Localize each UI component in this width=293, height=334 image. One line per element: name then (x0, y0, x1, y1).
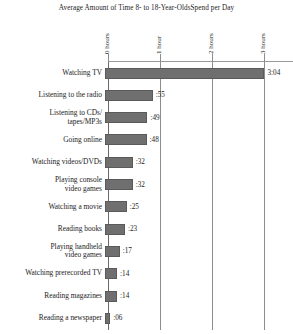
category-label: Watching prerecorded TV (0, 269, 105, 278)
category-label: Playing handheld video games (0, 243, 105, 260)
x-tick-label-3h: 3 hours (259, 33, 267, 54)
category-label: Playing console video games (0, 176, 105, 193)
bar (105, 179, 133, 190)
bar-value-label: :32 (136, 158, 145, 166)
tick-stub-2h (212, 54, 213, 62)
category-label: Watching TV (0, 69, 105, 78)
bar-container: :25 (105, 196, 293, 218)
x-tick-label-1h: 1 hour (155, 36, 163, 54)
bar-value-label: :32 (136, 181, 145, 189)
bar-value-label: :49 (150, 114, 159, 122)
category-label: Listening to the radio (0, 91, 105, 100)
bar-row: Listening to CDs/ tapes/MP3s:49 (0, 107, 293, 129)
bar-container: :32 (105, 151, 293, 173)
bar (105, 90, 153, 101)
bar-row: Watching videos/DVDs:32 (0, 151, 293, 173)
bar-chart: Average Amount of Time 8- to 18-Year-Old… (0, 0, 293, 334)
bar-container: :49 (105, 107, 293, 129)
category-label: Watching a movie (0, 203, 105, 212)
bar-row: Watching a movie:25 (0, 196, 293, 218)
bar-container: :14 (105, 285, 293, 307)
bar-container: :48 (105, 129, 293, 151)
bar-row: Watching TV3:04 (0, 62, 293, 84)
bar-row: Playing handheld video games:17 (0, 240, 293, 262)
bar-value-label: :25 (130, 203, 139, 211)
bar (105, 313, 110, 324)
bar-value-label: :23 (128, 225, 137, 233)
bar-value-label: :14 (120, 292, 129, 300)
bar-row: Playing console video games:32 (0, 174, 293, 196)
bar (105, 112, 147, 123)
bar-value-label: :06 (113, 314, 122, 322)
bar (105, 224, 125, 235)
bar-container: :14 (105, 263, 293, 285)
bar (105, 268, 117, 279)
bar (105, 68, 264, 79)
bar-container: :06 (105, 307, 293, 329)
bar-value-label: :48 (150, 136, 159, 144)
bar (105, 157, 133, 168)
category-label: Reading books (0, 225, 105, 234)
bar-row: Reading magazines:14 (0, 285, 293, 307)
x-tick-label-0h: 0 hours (103, 33, 111, 54)
bar-value-label: :14 (120, 270, 129, 278)
bar (105, 246, 120, 257)
bar-row: Going online:48 (0, 129, 293, 151)
bar-row: Watching prerecorded TV:14 (0, 263, 293, 285)
bar-container: :17 (105, 240, 293, 262)
category-label: Reading magazines (0, 292, 105, 301)
bar-container: 3:04 (105, 62, 293, 84)
bar (105, 134, 147, 145)
bar-row: Reading a newspaper:06 (0, 307, 293, 329)
bar-rows: Watching TV3:04Listening to the radio:55… (0, 62, 293, 330)
bar-container: :32 (105, 174, 293, 196)
bar (105, 201, 127, 212)
bar-value-label: 3:04 (267, 69, 280, 77)
bar-row: Listening to the radio:55 (0, 84, 293, 106)
bar-container: :55 (105, 84, 293, 106)
x-tick-label-2h: 2 hours (207, 33, 215, 54)
bar-value-label: :55 (156, 91, 165, 99)
tick-stub-0h (108, 54, 109, 62)
category-label: Reading a newspaper (0, 314, 105, 323)
category-label: Watching videos/DVDs (0, 158, 105, 167)
bar-row: Reading books:23 (0, 218, 293, 240)
bar-value-label: :17 (123, 247, 132, 255)
tick-stub-3h (264, 54, 265, 62)
x-axis-tick-labels: 0 hours1 hour2 hours3 hours4 hours (0, 0, 293, 62)
bar (105, 291, 117, 302)
tick-stub-1h (160, 54, 161, 62)
category-label: Listening to CDs/ tapes/MP3s (0, 109, 105, 126)
bar-container: :23 (105, 218, 293, 240)
category-label: Going online (0, 136, 105, 145)
